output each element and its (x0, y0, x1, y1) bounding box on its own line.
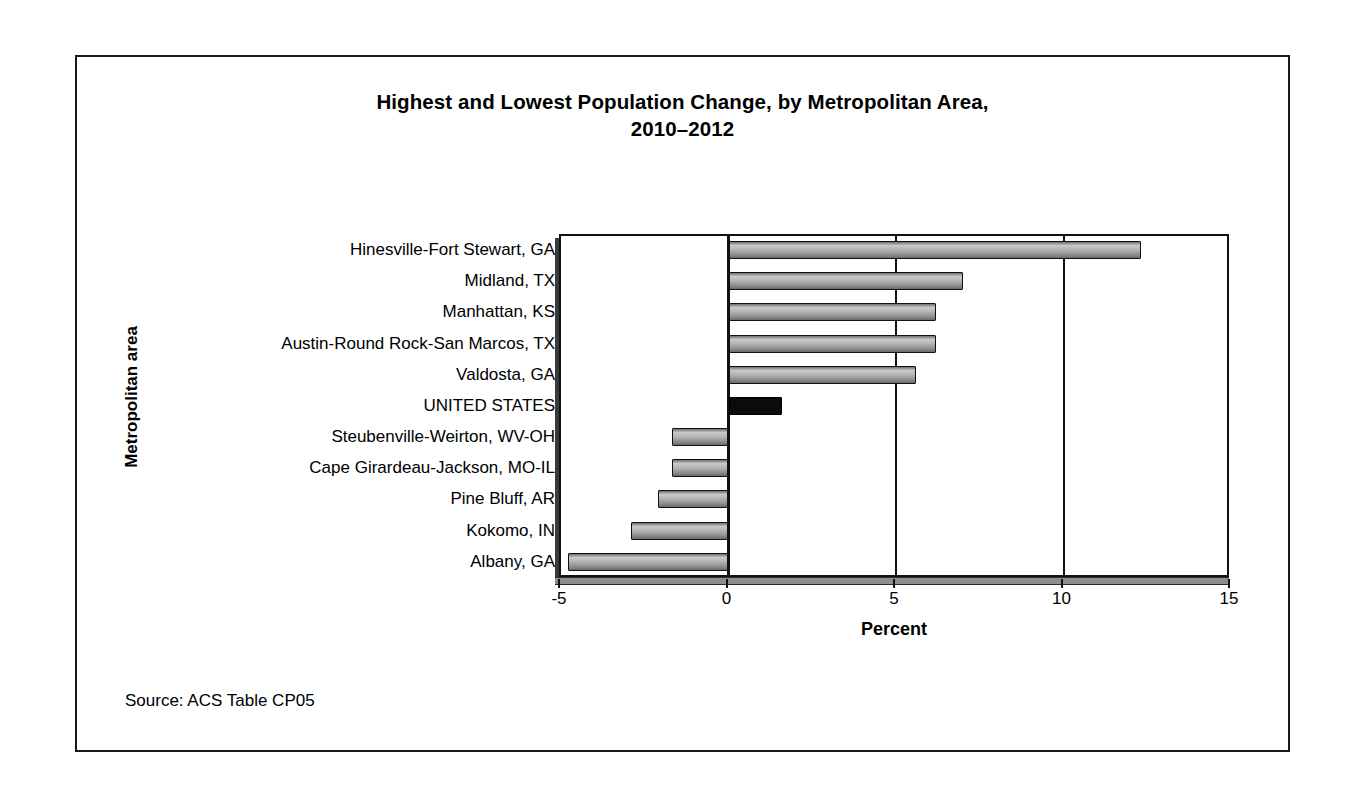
x-tick-mark-15 (1228, 579, 1230, 588)
bar-row (561, 236, 1227, 267)
bar-pine-bluff-ar[interactable] (658, 490, 728, 508)
bar-row (561, 361, 1227, 392)
bar-manhattan-ks[interactable] (729, 303, 937, 321)
bar-cape-girardeau-jackson-mo-il[interactable] (672, 459, 729, 477)
category-label: Manhattan, KS (443, 296, 555, 327)
category-label: Midland, TX (465, 265, 555, 296)
x-axis-tick-labels: -5051015 (559, 589, 1229, 615)
x-tick-label--5: -5 (551, 589, 566, 609)
page-title: Highest and Lowest Population Change, by… (77, 89, 1288, 142)
category-label: Pine Bluff, AR (450, 483, 555, 514)
bar-row (561, 330, 1227, 361)
category-label: Valdosta, GA (456, 359, 555, 390)
bar-row (561, 392, 1227, 423)
x-tick-label-15: 15 (1220, 589, 1239, 609)
bar-steubenville-weirton-wv-oh[interactable] (672, 428, 729, 446)
category-label: Hinesville-Fort Stewart, GA (350, 234, 555, 265)
y-axis-title: Metropolitan area (122, 277, 142, 517)
figure-frame: Highest and Lowest Population Change, by… (75, 55, 1290, 752)
x-tick-mark--5 (558, 579, 560, 588)
category-label: Kokomo, IN (466, 515, 555, 546)
category-axis-labels: Hinesville-Fort Stewart, GAMidland, TXMa… (177, 234, 555, 577)
bar-row (561, 454, 1227, 485)
x-tick-mark-5 (893, 579, 895, 588)
bar-row (561, 517, 1227, 548)
title-line-1: Highest and Lowest Population Change, by… (77, 89, 1288, 116)
category-label: Steubenville-Weirton, WV-OH (331, 421, 555, 452)
bar-row (561, 267, 1227, 298)
bar-kokomo-in[interactable] (631, 522, 728, 540)
bar-midland-tx[interactable] (729, 272, 964, 290)
x-tick-label-0: 0 (722, 589, 731, 609)
x-axis-title: Percent (559, 619, 1229, 640)
category-label: Albany, GA (470, 546, 555, 577)
bar-albany-ga[interactable] (568, 553, 729, 571)
category-label: UNITED STATES (423, 390, 555, 421)
category-label: Cape Girardeau-Jackson, MO-IL (309, 452, 555, 483)
x-tick-mark-10 (1061, 579, 1063, 588)
bar-united-states[interactable] (729, 397, 783, 415)
bar-austin-round-rock-san-marcos-tx[interactable] (729, 335, 937, 353)
bar-hinesville-fort-stewart-ga[interactable] (729, 241, 1141, 259)
bar-row (561, 485, 1227, 516)
title-line-2: 2010–2012 (77, 116, 1288, 143)
bar-row (561, 423, 1227, 454)
x-tick-label-5: 5 (889, 589, 898, 609)
bar-row (561, 298, 1227, 329)
source-note: Source: ACS Table CP05 (125, 691, 315, 711)
plot-area (559, 234, 1229, 577)
x-tick-mark-0 (726, 579, 728, 588)
bar-row (561, 548, 1227, 579)
x-tick-label-10: 10 (1052, 589, 1071, 609)
category-label: Austin-Round Rock-San Marcos, TX (281, 328, 555, 359)
bar-valdosta-ga[interactable] (729, 366, 917, 384)
